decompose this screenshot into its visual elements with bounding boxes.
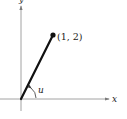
angle-arc xyxy=(31,88,36,98)
endpoint-dot xyxy=(50,32,55,37)
vector-diagram: y x (1, 2) u xyxy=(0,0,127,119)
vector-line xyxy=(21,35,53,99)
angle-label: u xyxy=(38,85,44,95)
y-axis-label: y xyxy=(18,0,24,4)
x-axis-label: x xyxy=(112,94,117,104)
point-label: (1, 2) xyxy=(57,31,83,42)
